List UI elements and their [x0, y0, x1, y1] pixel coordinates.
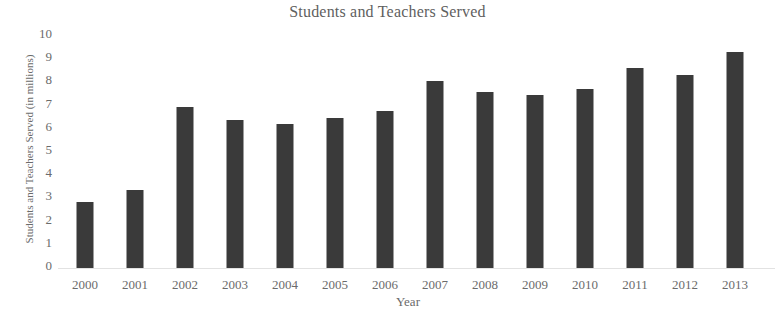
bar [327, 118, 344, 268]
bar-group: 2010 [560, 36, 610, 268]
bar-group: 2002 [160, 36, 210, 268]
x-axis-tick-label: 2004 [272, 277, 298, 293]
x-axis-tick-label: 2000 [72, 277, 98, 293]
x-axis-baseline [58, 268, 775, 269]
y-axis-tick-label: 9 [28, 49, 52, 65]
y-axis-tick-label: 8 [28, 72, 52, 88]
bar-group: 2011 [610, 36, 660, 268]
y-axis-tick-label: 2 [28, 212, 52, 228]
bar-group: 2003 [210, 36, 260, 268]
y-axis-tick-label: 5 [28, 142, 52, 158]
x-axis-tick-label: 2008 [472, 277, 498, 293]
y-axis-tick-label: 10 [28, 26, 52, 42]
bar-group: 2009 [510, 36, 560, 268]
bar [377, 111, 394, 268]
bar-group: 2005 [310, 36, 360, 268]
x-axis-tick-label: 2012 [672, 277, 698, 293]
bar [77, 202, 94, 268]
bar-group: 2008 [460, 36, 510, 268]
y-axis-tick-label: 3 [28, 188, 52, 204]
plot-area: 109876543210 200020012002200320042005200… [58, 34, 775, 269]
bar-group: 2000 [60, 36, 110, 268]
bar [577, 89, 594, 268]
y-axis-tick-label: 4 [28, 165, 52, 181]
bar [627, 68, 644, 268]
bar-group: 2001 [110, 36, 160, 268]
bar [677, 75, 694, 268]
bar [427, 81, 444, 268]
x-axis-tick-label: 2005 [322, 277, 348, 293]
y-axis-tick-label: 6 [28, 119, 52, 135]
bar [227, 120, 244, 268]
x-axis-tick-label: 2011 [622, 277, 648, 293]
y-axis-tick-label: 0 [28, 258, 52, 274]
bar [177, 107, 194, 268]
x-axis-tick-label: 2006 [372, 277, 398, 293]
y-axis-tick-label: 1 [28, 235, 52, 251]
bar [727, 52, 744, 268]
y-axis-tick-label: 7 [28, 96, 52, 112]
bar [527, 95, 544, 268]
bar [127, 190, 144, 268]
x-axis-tick-label: 2013 [722, 277, 748, 293]
x-axis-tick-label: 2003 [222, 277, 248, 293]
bar [277, 124, 294, 268]
bar [477, 92, 494, 268]
x-axis-tick-label: 2001 [122, 277, 148, 293]
bar-group: 2004 [260, 36, 310, 268]
x-axis-tick-label: 2009 [522, 277, 548, 293]
x-axis-tick-label: 2007 [422, 277, 448, 293]
chart-title: Students and Teachers Served [0, 3, 775, 21]
bar-group: 2007 [410, 36, 460, 268]
bar-group: 2012 [660, 36, 710, 268]
x-axis-title: Year [58, 294, 758, 310]
bar-chart: Students and Teachers Served Students an… [0, 0, 775, 319]
x-axis-tick-label: 2010 [572, 277, 598, 293]
bar-group: 2006 [360, 36, 410, 268]
x-axis-tick-label: 2002 [172, 277, 198, 293]
bar-group: 2013 [710, 36, 760, 268]
